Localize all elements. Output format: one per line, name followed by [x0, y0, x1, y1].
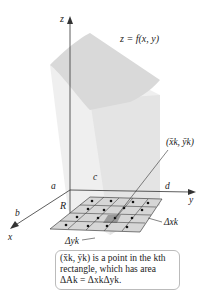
x-axis-label: x	[7, 232, 13, 242]
delta-y-label: Δyk	[64, 236, 80, 246]
bound-b: b	[15, 208, 20, 218]
dx-leader	[148, 218, 162, 222]
region-label: R	[59, 200, 66, 211]
z-axis-arrow	[67, 16, 73, 24]
point-label: (x̄k, ȳk)	[166, 137, 194, 148]
delta-x-label: Δxk	[163, 217, 179, 227]
bound-d: d	[165, 181, 170, 191]
caption-line-1: (x̄k, ȳk) is a point in the kth	[60, 253, 175, 264]
z-axis-label: z	[59, 13, 64, 24]
riemann-sum-diagram: z z = f(x, y) (x̄k, ȳk) a c d y R b x Δx…	[0, 0, 210, 290]
y-axis-label: y	[188, 195, 194, 205]
x-axis-arrow	[10, 221, 19, 229]
dy-leader	[82, 238, 95, 240]
bound-a: a	[51, 181, 56, 191]
region-grid	[50, 197, 162, 232]
caption-box: (x̄k, ȳk) is a point in the kth rectangl…	[55, 250, 180, 290]
surface-label: z = f(x, y)	[119, 33, 160, 45]
caption-line-3: ΔAk = ΔxkΔyk.	[60, 275, 175, 286]
caption-line-2: rectangle, which has area	[60, 264, 175, 275]
